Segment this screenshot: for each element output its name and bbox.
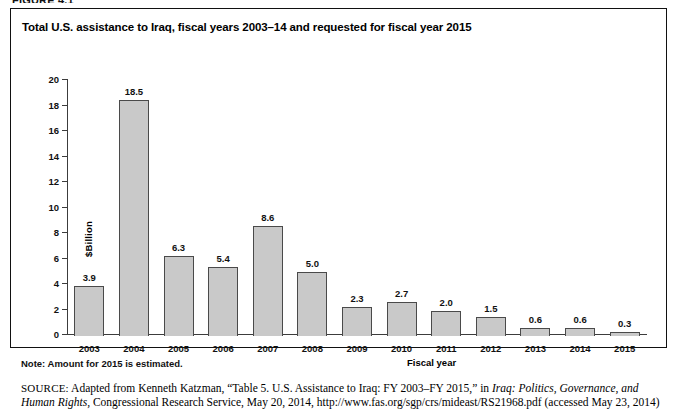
bar-group-2014[interactable]: 0.62014 [558, 81, 603, 336]
y-tick-label: 20 [48, 74, 59, 85]
bar-2010[interactable] [387, 302, 417, 336]
source-text-after: Congressional Research Service, May 20, … [90, 396, 659, 408]
x-tick-label-2013: 2013 [525, 343, 546, 354]
x-tick-label-2012: 2012 [480, 343, 501, 354]
x-tick-label-2006: 2006 [213, 343, 234, 354]
figure-box: Total U.S. assistance to Iraq, fiscal ye… [10, 8, 667, 348]
x-tick-label-2009: 2009 [346, 343, 367, 354]
y-tick-label: 6 [54, 252, 59, 263]
bar-value-label-2005: 6.3 [172, 242, 185, 253]
bar-group-2006[interactable]: 5.42006 [201, 81, 246, 336]
figure-title: Total U.S. assistance to Iraq, fiscal ye… [22, 21, 472, 33]
bar-2005[interactable] [164, 256, 194, 336]
figure-note: Note: Amount for 2015 is estimated. [21, 358, 183, 369]
bar-group-2012[interactable]: 1.52012 [469, 81, 514, 336]
x-tick-label-2010: 2010 [391, 343, 412, 354]
y-tick-label: 2 [54, 303, 59, 314]
y-tick-label: 14 [48, 150, 59, 161]
bar-value-label-2010: 2.7 [395, 288, 408, 299]
bar-2011[interactable] [431, 311, 461, 337]
bar-group-2007[interactable]: 8.62007 [245, 81, 290, 336]
y-tick-label: 16 [48, 125, 59, 136]
bar-2008[interactable] [297, 272, 327, 336]
x-tick-label-2007: 2007 [257, 343, 278, 354]
bar-group-2013[interactable]: 0.62013 [513, 81, 558, 336]
bar-value-label-2003: 3.9 [83, 272, 96, 283]
bar-value-label-2006: 5.4 [217, 253, 230, 264]
x-tick-label-2011: 2011 [436, 343, 457, 354]
bar-2015[interactable] [610, 332, 640, 336]
bar-value-label-2015: 0.3 [618, 318, 631, 329]
x-tick-label-2005: 2005 [168, 343, 189, 354]
bar-value-label-2008: 5.0 [306, 258, 319, 269]
figure-caption: FIGURE 4.1 [12, 0, 74, 3]
bar-group-2009[interactable]: 2.32009 [335, 81, 380, 336]
bar-value-label-2007: 8.6 [261, 212, 274, 223]
bar-group-2010[interactable]: 2.72010 [379, 81, 424, 336]
bar-2012[interactable] [476, 317, 506, 336]
y-tick-label: 0 [54, 329, 59, 340]
bar-value-label-2013: 0.6 [529, 314, 542, 325]
bar-2013[interactable] [520, 328, 550, 336]
bar-value-label-2012: 1.5 [484, 303, 497, 314]
y-tick-label: 10 [48, 201, 59, 212]
y-tick-label: 12 [48, 176, 59, 187]
y-tick-label: 18 [48, 99, 59, 110]
bar-2007[interactable] [253, 226, 283, 336]
figure-source: SOURCE: Adapted from Kenneth Katzman, “T… [21, 381, 661, 409]
x-axis-title: Fiscal year [407, 357, 456, 368]
bar-2014[interactable] [565, 328, 595, 336]
x-tick-label-2008: 2008 [302, 343, 323, 354]
source-text-before: Adapted from Kenneth Katzman, “Table 5. … [69, 382, 492, 394]
x-tick-label-2003: 2003 [79, 343, 100, 354]
x-tick-label-2004: 2004 [123, 343, 144, 354]
y-tick-label: 8 [54, 227, 59, 238]
chart-plot-area: $Billion 02468101214161820 3.9200318.520… [67, 71, 647, 336]
x-tick-label-2014: 2014 [569, 343, 590, 354]
y-tick-label: 4 [54, 278, 59, 289]
source-label: SOURCE: [21, 382, 69, 394]
bar-value-label-2009: 2.3 [350, 293, 363, 304]
bar-value-label-2011: 2.0 [440, 297, 453, 308]
bar-value-label-2014: 0.6 [573, 314, 586, 325]
bar-2003[interactable] [74, 286, 104, 336]
bar-2006[interactable] [208, 267, 238, 336]
bar-group-2004[interactable]: 18.52004 [112, 81, 157, 336]
bar-group-2008[interactable]: 5.02008 [290, 81, 335, 336]
bar-group-2005[interactable]: 6.32005 [156, 81, 201, 336]
y-tick-mark [62, 79, 67, 80]
bar-2004[interactable] [119, 100, 149, 336]
bar-group-2003[interactable]: 3.92003 [67, 81, 112, 336]
bar-group-2011[interactable]: 2.02011 [424, 81, 469, 336]
bar-value-label-2004: 18.5 [125, 86, 144, 97]
bar-2009[interactable] [342, 307, 372, 336]
plot-inner: 02468101214161820 3.9200318.520046.32005… [67, 79, 647, 336]
bar-group-2015[interactable]: 0.32015 [602, 81, 647, 336]
x-tick-label-2015: 2015 [614, 343, 635, 354]
